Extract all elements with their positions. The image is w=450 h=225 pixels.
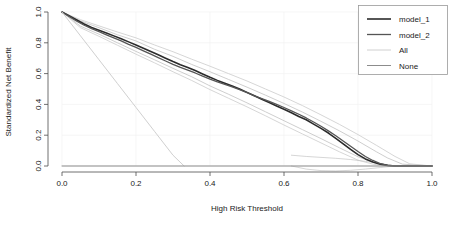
y-tick-label: 0.8 <box>34 37 43 49</box>
legend-label-model_1: model_1 <box>399 15 430 24</box>
y-tick-label: 0.2 <box>34 129 43 141</box>
y-tick-label-layer: 0.00.20.40.60.81.0 <box>34 6 43 172</box>
y-axis-title: Standardized Net Benefit <box>4 47 13 137</box>
chart-canvas: 0.00.20.40.60.81.0 0.00.20.40.60.81.0 Hi… <box>0 0 450 225</box>
x-tick-label: 0.6 <box>278 179 290 188</box>
legend-label-All: All <box>399 46 408 55</box>
x-tick-label: 0.2 <box>130 179 142 188</box>
series-line-All <box>62 12 184 166</box>
chart-legend: model_1model_2AllNone <box>359 6 448 75</box>
legend-label-model_2: model_2 <box>399 31 430 40</box>
decision-curve-chart: 0.00.20.40.60.81.0 0.00.20.40.60.81.0 Hi… <box>0 0 450 225</box>
y-tick-label: 1.0 <box>34 6 43 18</box>
y-tick-label: 0.0 <box>34 160 43 172</box>
x-tick-label: 0.0 <box>56 179 68 188</box>
y-tick-label: 0.4 <box>34 98 43 110</box>
x-tick-label: 0.4 <box>204 179 216 188</box>
confidence-band-tail-loop-lower <box>291 166 395 171</box>
legend-label-None: None <box>399 62 419 71</box>
x-tick-label: 0.8 <box>352 179 364 188</box>
x-tick-label: 1.0 <box>426 179 438 188</box>
x-axis-title: High Risk Threshold <box>211 204 283 213</box>
y-tick-label: 0.6 <box>34 67 43 79</box>
x-tick-label-layer: 0.00.20.40.60.81.0 <box>56 179 438 188</box>
